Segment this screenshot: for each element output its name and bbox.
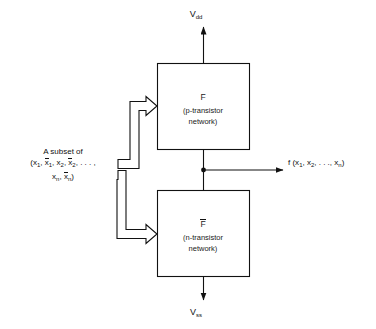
input-bus-arrow-p-network <box>118 97 157 169</box>
p-network-description-line1: (p-transistor <box>183 106 223 115</box>
n-network-label-group: F (n-transistor network) <box>157 219 249 254</box>
vss-label: Vss <box>176 307 216 320</box>
input-bus-arrow-n-network <box>117 171 157 244</box>
vdd-label-subscript: dd <box>196 14 203 20</box>
input-label-line2: (x1, x1, x2, x2, . . . , <box>4 157 122 171</box>
p-network-description-line2: network) <box>189 117 218 126</box>
output-junction-dot <box>201 168 206 173</box>
n-network-function-label: F <box>200 219 205 229</box>
output-function-name: f <box>288 158 290 167</box>
vss-label-subscript: ss <box>196 312 202 318</box>
n-network-description-line2: network) <box>189 244 218 253</box>
n-network-description-line1: (n-transistor <box>183 233 223 242</box>
input-label-line1: A subset of <box>4 146 122 157</box>
p-network-function-label: F <box>157 92 249 103</box>
p-network-label-group: F (p-transistor network) <box>157 92 249 127</box>
input-label-line3: xn, xn) <box>4 171 122 185</box>
vdd-label: Vdd <box>176 9 216 22</box>
input-signal-label: A subset of (x1, x1, x2, x2, . . . , xn,… <box>4 146 122 185</box>
cmos-block-diagram-figure: Vdd Vss F (p-transistor network) F (n-tr… <box>0 0 376 329</box>
output-signal-label: f (x1, x2, . . ., xn) <box>288 158 344 170</box>
n-network-function-label-wrap: F <box>157 219 249 230</box>
